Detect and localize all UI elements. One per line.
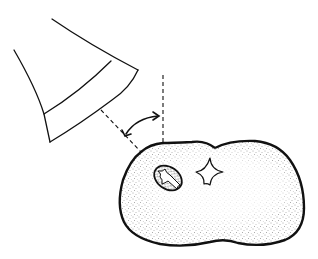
x-ray-cone <box>14 19 138 142</box>
tooth-inner-lighter-area <box>132 148 292 232</box>
cone-rim-band <box>44 61 111 114</box>
illustration <box>0 0 318 259</box>
cone-top-edge <box>52 19 138 70</box>
cone-left-edge <box>14 50 50 142</box>
cone-rim-outer <box>50 70 138 142</box>
central-ray-dashed-line <box>101 110 141 152</box>
angle-arrow-icon <box>122 112 159 136</box>
tooth-cross-section <box>120 141 304 246</box>
